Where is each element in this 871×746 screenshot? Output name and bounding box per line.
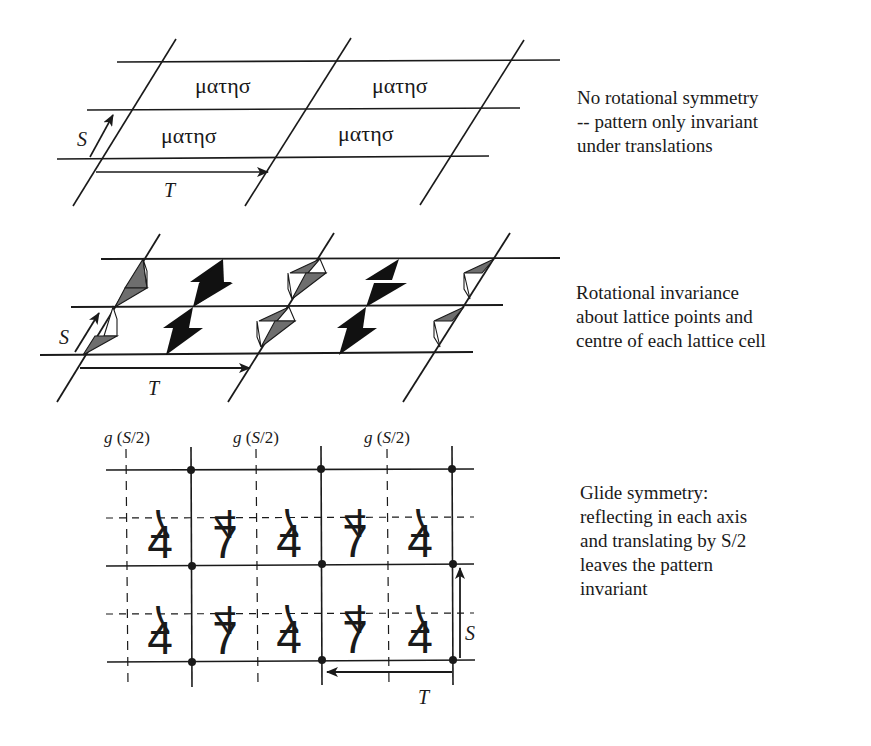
lattice-point xyxy=(318,560,326,568)
bolt-motif xyxy=(193,283,233,307)
caption-line: centre of each lattice cell xyxy=(576,329,766,353)
bolt-motif xyxy=(337,307,366,328)
caption-line: invariant xyxy=(580,577,747,601)
glide-label: g (S/2) xyxy=(104,428,150,447)
bolt-motif xyxy=(199,259,224,283)
caption-line: Glide symmetry: xyxy=(580,481,747,505)
motif-text: ματησ xyxy=(372,73,428,98)
bolt-motif xyxy=(166,328,203,355)
motif-text: ματησ xyxy=(161,123,217,148)
lattice-row-line xyxy=(101,258,560,259)
s-vector-label: S xyxy=(59,326,69,348)
pinwheel-motif xyxy=(434,307,464,347)
caption-line: No rotational symmetry xyxy=(577,86,759,110)
glyph-reflected: 7 xyxy=(409,597,431,641)
lattice-row-line xyxy=(57,156,489,159)
caption-line: and translating by S/2 xyxy=(580,529,747,553)
s-vector-arrow xyxy=(90,115,113,157)
glyph-reflected: 4 xyxy=(344,501,366,545)
glyph-reflected: 7 xyxy=(149,598,171,642)
glide-label: g (S/2) xyxy=(364,428,410,447)
lattice-point xyxy=(317,465,325,473)
caption-glide: Glide symmetry: reflecting in each axis … xyxy=(580,481,747,601)
glide-axis-vertical xyxy=(256,449,258,687)
lattice-row-line xyxy=(87,108,520,110)
caption-line: under translations xyxy=(577,134,759,158)
lattice-row-line xyxy=(106,469,474,470)
t-vector-label: T xyxy=(164,179,177,201)
bolt-motif xyxy=(163,307,193,328)
glyph-reflected: 7 xyxy=(409,501,431,545)
glyph-reflected: 4 xyxy=(214,502,236,546)
s-vector-label: S xyxy=(77,128,87,150)
lattice-point xyxy=(449,560,457,568)
pinwheel-motif xyxy=(257,307,295,347)
caption-line: reflecting in each axis xyxy=(580,505,747,529)
pinwheel-motif xyxy=(115,259,147,307)
bolt-motif xyxy=(366,283,407,307)
lattice-row-line xyxy=(117,60,560,62)
lattice-point xyxy=(448,465,456,473)
glide-axis-vertical xyxy=(126,449,128,687)
translation-lattice xyxy=(57,38,560,206)
lattice-point xyxy=(449,656,457,664)
glyph-reflected: 7 xyxy=(278,501,300,545)
pinwheel-motif xyxy=(464,259,494,299)
pinwheel-motif xyxy=(288,259,326,299)
glide-axis-vertical xyxy=(387,449,389,687)
lattice-point xyxy=(318,656,326,664)
s-vector-label: S xyxy=(465,622,475,644)
bolt-motif xyxy=(365,259,399,280)
lattice-point xyxy=(188,562,196,570)
bolt-motif xyxy=(339,328,377,355)
motif-text: ματησ xyxy=(195,73,251,98)
glide-label: g (S/2) xyxy=(233,428,279,447)
lattice-point xyxy=(187,466,195,474)
glyph-reflected: 4 xyxy=(344,597,366,641)
caption-line: about lattice points and xyxy=(576,305,766,329)
rotation-lattice xyxy=(40,233,560,402)
t-vector-label: T xyxy=(418,686,431,708)
caption-line: leaves the pattern xyxy=(580,553,747,577)
lattice-point xyxy=(188,658,196,666)
lattice-slant-line xyxy=(420,40,524,205)
caption-rotation: Rotational invariance about lattice poin… xyxy=(576,281,766,353)
glyph-reflected: 7 xyxy=(278,597,300,641)
caption-line: Rotational invariance xyxy=(576,281,766,305)
lattice-row-line xyxy=(40,352,473,355)
glyph-reflected: 7 xyxy=(149,502,171,546)
caption-translation: No rotational symmetry -- pattern only i… xyxy=(577,86,759,158)
lattice-slant-line xyxy=(245,38,351,206)
glyph-reflected: 4 xyxy=(214,598,236,642)
caption-line: -- pattern only invariant xyxy=(577,110,759,134)
motif-text: ματησ xyxy=(338,121,394,146)
translation-motifs: ματησ ματησ ματησ ματησ xyxy=(161,73,428,148)
t-vector-label: T xyxy=(148,377,161,399)
